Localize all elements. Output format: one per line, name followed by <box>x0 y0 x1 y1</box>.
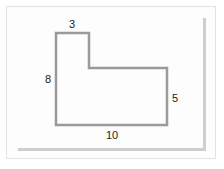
label-top-side: 3 <box>69 19 75 30</box>
label-left-side: 8 <box>45 74 51 85</box>
label-bottom-side: 10 <box>106 130 118 141</box>
label-right-side: 5 <box>172 93 178 104</box>
l-shape-polygon <box>0 0 224 169</box>
